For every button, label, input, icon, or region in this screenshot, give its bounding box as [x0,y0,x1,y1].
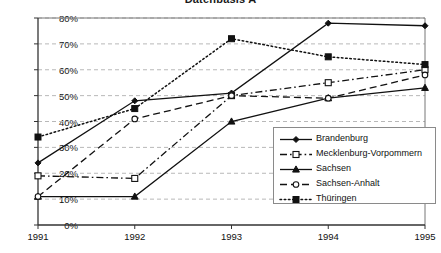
data-point [132,175,138,181]
legend-label: Thüringen [316,192,357,205]
data-point [35,194,41,200]
legend-label: Brandenburg [316,132,368,145]
legend-swatch-icon [279,147,313,160]
legend-label: Sachsen-Anhalt [316,177,380,190]
legend-swatch-icon [279,192,313,205]
legend-label: Mecklenburg-Vorpommern [316,147,422,160]
data-point [325,80,331,86]
data-point [35,173,41,179]
legend-swatch-icon [279,177,313,190]
legend-item-brandenburg[interactable]: Brandenburg [274,131,435,146]
legend-item-sachsen[interactable]: Sachsen [274,161,435,176]
legend-marker [293,137,299,143]
data-point [422,72,428,78]
data-point [325,54,331,60]
chart-container: Datenbasis A 0%10%20%30%40%50%60%70%80% … [0,0,441,253]
data-point [422,62,428,68]
data-point [422,23,428,29]
data-point [229,93,235,99]
chart-legend: BrandenburgMecklenburg-VorpommernSachsen… [273,127,436,204]
data-point [325,95,331,101]
legend-swatch-icon [279,132,313,145]
legend-marker [293,182,299,188]
legend-label: Sachsen [316,162,351,175]
legend-item-sachsen-anhalt[interactable]: Sachsen-Anhalt [274,176,435,191]
data-point [132,116,138,122]
legend-marker [293,152,299,158]
legend-swatch-icon [279,162,313,175]
data-point [35,134,41,140]
data-point [229,36,235,42]
legend-item-mecklenburg-vorpommern[interactable]: Mecklenburg-Vorpommern [274,146,435,161]
data-point [132,106,138,112]
legend-marker [293,197,299,203]
legend-item-th-ringen[interactable]: Thüringen [274,191,435,206]
data-point [422,84,429,90]
